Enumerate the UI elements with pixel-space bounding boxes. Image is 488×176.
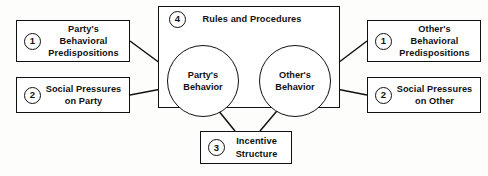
party-behavior-node[interactable]: Party's Behavior (167, 45, 239, 117)
other-behavior-node[interactable]: Other's Behavior (259, 45, 331, 117)
rules-and-procedures-header: 4 Rules and Procedures (158, 10, 340, 28)
party-predispositions-number-badge: 1 (24, 33, 41, 50)
social-pressures-on-party-label: Social Pressures on Party (41, 83, 129, 107)
rules-label: Rules and Procedures (186, 13, 340, 25)
other-behavior-label: Other's Behavior (275, 69, 314, 94)
rules-number-badge: 4 (169, 11, 186, 28)
incentive-structure-label: Incentive Structure (225, 135, 291, 159)
diagram-canvas: 4 Rules and Procedures Party's Behavior … (0, 0, 488, 176)
social-pressures-on-party-node[interactable]: 2 Social Pressures on Party (16, 77, 130, 113)
social-pressures-on-other-node[interactable]: 2 Social Pressures on Other (367, 77, 481, 113)
party-predispositions-node[interactable]: 1 Party's Behavioral Predispositions (16, 20, 130, 62)
social-pressures-on-party-number-badge: 2 (24, 87, 41, 104)
social-pressures-on-other-number-badge: 2 (375, 87, 392, 104)
other-predispositions-label: Other's Behavioral Predispositions (392, 23, 480, 59)
party-predispositions-label: Party's Behavioral Predispositions (41, 23, 129, 59)
incentive-structure-number-badge: 3 (208, 139, 225, 156)
incentive-structure-node[interactable]: 3 Incentive Structure (200, 131, 292, 164)
party-behavior-label: Party's Behavior (183, 69, 222, 94)
other-predispositions-number-badge: 1 (375, 33, 392, 50)
social-pressures-on-other-label: Social Pressures on Other (392, 83, 480, 107)
other-predispositions-node[interactable]: 1 Other's Behavioral Predispositions (367, 20, 481, 62)
